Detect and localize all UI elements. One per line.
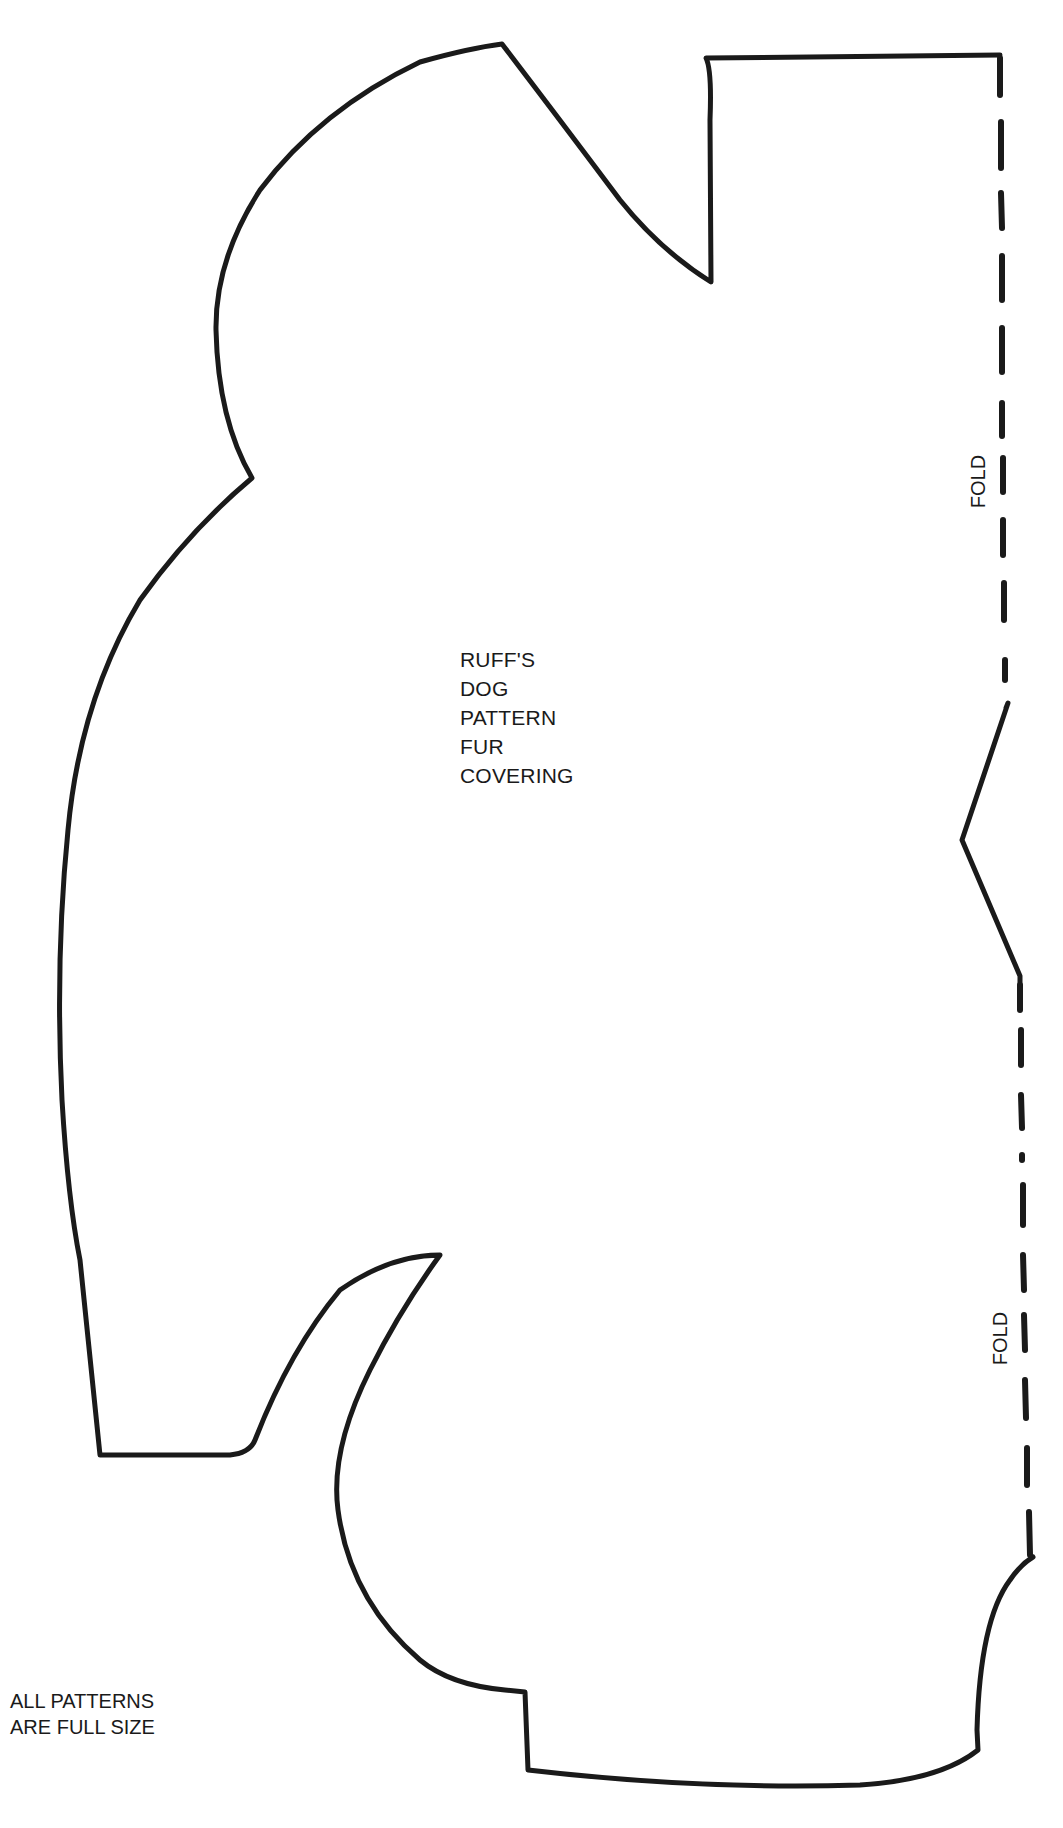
fold-label-lower: FOLD (989, 1309, 1012, 1369)
cut-line (60, 44, 1033, 1786)
size-note-line: ALL PATTERNS (10, 1688, 155, 1714)
pattern-title: RUFF'S DOG PATTERN FUR COVERING (460, 645, 574, 790)
pattern-title-line: PATTERN (460, 703, 574, 732)
pattern-title-line: COVERING (460, 761, 574, 790)
size-note-line: ARE FULL SIZE (10, 1714, 155, 1740)
notch-line (962, 703, 1020, 985)
pattern-outline (0, 0, 1063, 1828)
pattern-title-line: FUR (460, 732, 574, 761)
fold-line-upper (1000, 58, 1005, 680)
pattern-title-line: RUFF'S (460, 645, 574, 674)
fold-line-lower (1020, 985, 1030, 1555)
pattern-title-line: DOG (460, 674, 574, 703)
size-note: ALL PATTERNS ARE FULL SIZE (10, 1688, 155, 1740)
fold-label-upper: FOLD (967, 452, 990, 512)
